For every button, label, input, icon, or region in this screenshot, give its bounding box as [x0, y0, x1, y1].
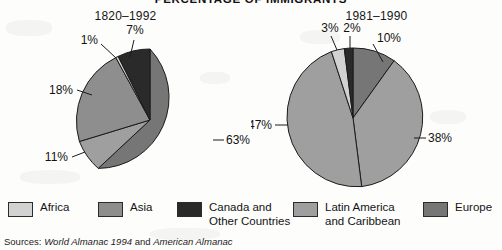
pie-value-label-africa-1820: 1%: [81, 33, 99, 47]
legend-label-europe: Europe: [455, 201, 492, 215]
pie-value-label-latin-1981: 47%: [251, 118, 272, 132]
leader-line-11: [72, 152, 85, 157]
legend-swatch-asia: [98, 202, 123, 217]
legend-label-latin-america-caribbean: Latin America and Caribbean: [325, 201, 400, 228]
legend-label-canada-other: Canada and Other Countries: [209, 201, 290, 228]
pie-value-label-africa-1981: 3%: [321, 21, 339, 35]
legend-item-latin-america-caribbean[interactable]: Latin America and Caribbean: [293, 201, 400, 228]
legend-label-africa: Africa: [40, 201, 69, 215]
legend-label-asia: Asia: [130, 201, 152, 215]
pie-svg-1981-1990: 10% 38% 47% 3% 2%: [251, 0, 502, 196]
leader-line-3: [331, 36, 337, 50]
pie-value-label-asia-1820: 18%: [49, 83, 73, 97]
source-title-2: American Almanac: [153, 236, 232, 247]
legend-swatch-europe: [423, 202, 448, 217]
pie-chart-1981-1990: 10% 38% 47% 3% 2%: [251, 0, 502, 196]
source-title-1: World Almanac 1994: [44, 236, 132, 247]
pie-value-label-latin-1820: 11%: [45, 150, 68, 164]
pie-value-label-canada-1981: 2%: [343, 21, 361, 35]
pie-panel-1981-1990: 1981–1990 10%: [251, 0, 502, 196]
legend-swatch-latin-america-caribbean: [293, 202, 318, 217]
figure-canvas: PERCENTAGE OF IMMIGRANTS 1820–1992: [0, 0, 502, 250]
legend-item-canada-other[interactable]: Canada and Other Countries: [177, 201, 290, 228]
pie-value-label-europe-1981: 10%: [377, 31, 401, 45]
pie-value-label-canada-1820: 7%: [126, 23, 144, 37]
source-joiner: and: [135, 236, 151, 247]
legend-item-asia[interactable]: Asia: [98, 201, 152, 217]
leader-line-1: [101, 44, 116, 58]
pie-value-label-europe-1820: 63%: [226, 133, 250, 147]
source-prefix: Sources:: [4, 236, 42, 247]
source-note: Sources: World Almanac 1994 and American…: [4, 236, 233, 247]
legend-swatch-canada-other: [177, 202, 202, 217]
legend-item-africa[interactable]: Africa: [8, 201, 69, 217]
pie-value-label-asia-1981: 38%: [428, 131, 452, 145]
legend: Africa Asia Canada and Other Countries L…: [0, 196, 502, 234]
legend-item-europe[interactable]: Europe: [423, 201, 492, 217]
pie-chart-1820-1992: 63% 11% 18% 1% 7%: [0, 0, 251, 196]
legend-swatch-africa: [8, 202, 33, 217]
pie-panel-1820-1992: 1820–1992 63%: [0, 0, 251, 196]
pie-svg-1820-1992: 63% 11% 18% 1% 7%: [0, 0, 251, 196]
